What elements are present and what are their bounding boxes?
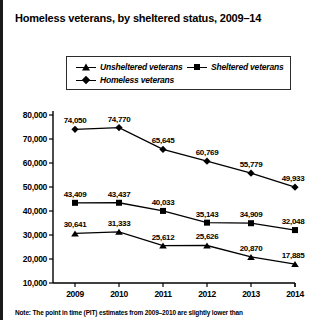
data-point-label: 32,048 <box>282 217 305 226</box>
data-point-label: 55,779 <box>240 160 263 169</box>
plot-area: 10,00020,00030,00040,00050,00060,00070,0… <box>3 0 318 320</box>
x-tick-label: 2009 <box>55 289 95 299</box>
y-tick-label: 50,000 <box>5 182 47 192</box>
y-tick-label: 30,000 <box>5 230 47 240</box>
y-tick-label: 10,000 <box>5 278 47 288</box>
data-point-label: 35,143 <box>196 210 219 219</box>
x-tick-label: 2013 <box>231 289 271 299</box>
data-point-label: 43,437 <box>108 190 131 199</box>
data-point-label: 20,870 <box>240 244 263 253</box>
y-tick-label: 70,000 <box>5 134 47 144</box>
data-point-label: 74,770 <box>108 115 131 124</box>
chart-figure: Homeless veterans, by sheltered status, … <box>0 0 318 320</box>
data-point-label: 65,645 <box>152 136 175 145</box>
data-point-label: 43,409 <box>64 190 87 199</box>
x-tick-label: 2010 <box>99 289 139 299</box>
data-point-label: 31,333 <box>108 219 131 228</box>
data-point-label: 30,641 <box>64 220 87 229</box>
data-point-label: 60,769 <box>196 148 219 157</box>
data-point-label: 49,933 <box>282 174 305 183</box>
data-point-label: 34,909 <box>240 210 263 219</box>
data-point-label: 25,626 <box>196 232 219 241</box>
y-tick-label: 20,000 <box>5 254 47 264</box>
y-tick-label: 60,000 <box>5 158 47 168</box>
chart-note: Note: The point in time (PIT) estimates … <box>15 309 315 320</box>
chart-svg <box>3 0 318 320</box>
y-tick-label: 40,000 <box>5 206 47 216</box>
data-point-label: 74,050 <box>64 116 87 125</box>
y-tick-label: 80,000 <box>5 110 47 120</box>
x-tick-label: 2014 <box>275 289 315 299</box>
data-point-label: 40,033 <box>152 198 175 207</box>
x-tick-label: 2012 <box>187 289 227 299</box>
data-point-label: 25,612 <box>152 233 175 242</box>
x-tick-label: 2011 <box>143 289 183 299</box>
data-point-label: 17,885 <box>282 251 305 260</box>
